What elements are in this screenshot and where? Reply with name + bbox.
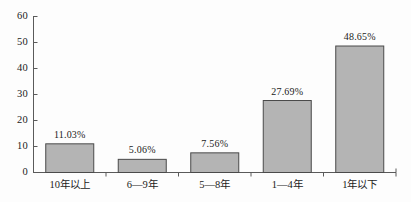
x-tick-marks: [106, 173, 396, 177]
bars-group: [46, 46, 384, 172]
bar: [191, 153, 239, 173]
bar: [46, 144, 94, 173]
bar-chart: 0102030405060 10年以上6—9年5—8年1—4年1年以下 11.0…: [0, 0, 411, 202]
bar: [336, 46, 384, 172]
bar: [118, 159, 166, 172]
chart-canvas: [0, 0, 411, 202]
bar: [263, 101, 311, 173]
y-tick-marks: [34, 17, 38, 173]
